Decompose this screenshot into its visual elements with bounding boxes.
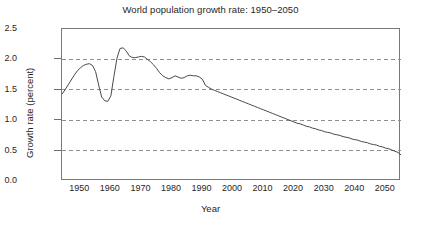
data-series-group [62, 48, 401, 155]
x-tick-label: 1960 [100, 183, 120, 193]
x-tick-label: 2030 [314, 183, 334, 193]
y-tick-mark [54, 150, 61, 151]
y-axis-title: Growth rate (percent) [24, 68, 35, 158]
chart-figure: World population growth rate: 1950–2050 … [0, 0, 421, 225]
y-tick-label: 2.5 [4, 23, 17, 33]
y-tick-label: 1.5 [4, 84, 17, 94]
plot-area [61, 28, 400, 180]
x-tick-label: 1950 [69, 183, 89, 193]
x-axis-title: Year [0, 203, 421, 214]
plot-svg [62, 29, 401, 181]
gridlines [62, 59, 401, 150]
y-tick-mark [54, 119, 61, 120]
chart-title: World population growth rate: 1950–2050 [0, 4, 421, 15]
x-tick-label: 2040 [344, 183, 364, 193]
data-line [62, 48, 401, 155]
y-tick-mark [54, 58, 61, 59]
x-tick-label: 2050 [375, 183, 395, 193]
x-tick-label: 1990 [191, 183, 211, 193]
x-tick-label: 1980 [161, 183, 181, 193]
x-tick-label: 1970 [130, 183, 150, 193]
x-tick-label: 2010 [253, 183, 273, 193]
y-tick-label: 0.5 [4, 145, 17, 155]
y-tick-label: 1.0 [4, 114, 17, 124]
x-tick-label: 2000 [222, 183, 242, 193]
y-tick-label: 2.0 [4, 53, 17, 63]
x-tick-label: 2020 [283, 183, 303, 193]
x-axis-tick-labels: 1950196019701980199020002010202020302040… [0, 183, 421, 199]
y-tick-mark [54, 89, 61, 90]
